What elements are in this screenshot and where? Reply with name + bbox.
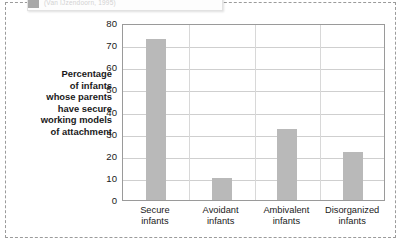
x-axis-tick-label-line: Avoidant: [188, 205, 254, 216]
x-axis-tick-label-line: infants: [319, 216, 385, 227]
x-axis-tick-label: Secureinfants: [122, 205, 188, 227]
bar: [212, 178, 232, 200]
x-axis-tick-label-line: infants: [254, 216, 320, 227]
category-separator: [320, 25, 321, 200]
bar: [146, 39, 166, 201]
x-axis-tick-label: Avoidantinfants: [188, 205, 254, 227]
y-axis-tick-label: 80: [91, 18, 117, 29]
y-axis-tick-label: 60: [91, 62, 117, 73]
x-axis-tick-label-line: infants: [122, 216, 188, 227]
category-separator: [255, 25, 256, 200]
x-axis-tick-label: Disorganizedinfants: [319, 205, 385, 227]
caption-color-swatch: [28, 0, 39, 8]
y-axis-tick-label: 50: [91, 84, 117, 95]
x-axis-tick-label-line: Disorganized: [319, 205, 385, 216]
x-axis-tick-label-line: Ambivalent: [254, 205, 320, 216]
category-separator: [189, 25, 190, 200]
y-axis-tick-label: 70: [91, 40, 117, 51]
y-axis-tick-label: 20: [91, 151, 117, 162]
y-axis-tick-label: 30: [91, 129, 117, 140]
x-axis-tick-label: Ambivalentinfants: [254, 205, 320, 227]
plot-area: [122, 24, 385, 201]
x-axis-tick-label-line: infants: [188, 216, 254, 227]
y-axis-tick-label: 10: [91, 173, 117, 184]
x-axis-tick-label-line: Secure: [122, 205, 188, 216]
y-axis-tick-label: 40: [91, 107, 117, 118]
bar: [343, 152, 363, 200]
y-axis-tick-label: 0: [91, 195, 117, 206]
bar: [277, 129, 297, 200]
y-axis-title: Percentageof infantswhose parentshave se…: [8, 68, 112, 138]
chart-figure: (Van IJzendoorn, 1995) Percentageof infa…: [0, 0, 401, 243]
caption-text: (Van IJzendoorn, 1995): [44, 0, 116, 6]
